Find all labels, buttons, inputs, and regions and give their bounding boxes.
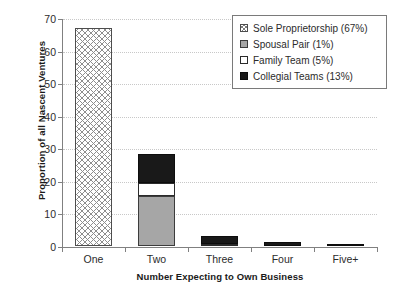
legend-item: Spousal Pair (1%) bbox=[240, 36, 380, 52]
x-tick-mark bbox=[314, 248, 315, 252]
y-tick-label: 60 bbox=[44, 46, 56, 58]
y-tick-mark bbox=[58, 182, 62, 183]
bar-stack bbox=[327, 244, 364, 246]
bar-segment-collegial-teams bbox=[201, 236, 238, 244]
legend-swatch-icon bbox=[240, 72, 248, 80]
y-tick-mark bbox=[58, 214, 62, 215]
legend-label: Sole Proprietorship (67%) bbox=[253, 23, 368, 34]
legend-label: Family Team (5%) bbox=[253, 55, 333, 66]
x-tick-label: Two bbox=[147, 253, 166, 265]
y-tick-label: 40 bbox=[44, 111, 56, 123]
x-tick-mark bbox=[125, 248, 126, 252]
y-tick-label: 70 bbox=[44, 13, 56, 25]
bar-segment-collegial-teams bbox=[138, 154, 175, 184]
bar-segment-collegial-teams bbox=[264, 242, 301, 246]
legend-label: Collegial Teams (13%) bbox=[253, 71, 353, 82]
legend-item: Collegial Teams (13%) bbox=[240, 68, 380, 84]
y-tick-label: 0 bbox=[50, 241, 56, 253]
bar-segment-sole-proprietorship bbox=[75, 28, 112, 246]
bar-segment-spousal-pair bbox=[138, 196, 175, 246]
bar-segment-family-team bbox=[138, 183, 175, 196]
y-tick-label: 50 bbox=[44, 78, 56, 90]
legend-swatch-icon bbox=[240, 24, 248, 32]
bar-stack bbox=[201, 236, 238, 246]
x-axis-line bbox=[62, 247, 378, 248]
legend-swatch-icon bbox=[240, 40, 248, 48]
legend-label: Spousal Pair (1%) bbox=[253, 39, 334, 50]
y-tick-mark bbox=[58, 117, 62, 118]
y-tick-mark bbox=[58, 84, 62, 85]
legend-swatch-icon bbox=[240, 56, 248, 64]
y-tick-mark bbox=[58, 19, 62, 20]
legend: Sole Proprietorship (67%)Spousal Pair (1… bbox=[232, 15, 387, 89]
bar-segment-family-team bbox=[201, 244, 238, 246]
y-tick-label: 20 bbox=[44, 176, 56, 188]
x-tick-mark bbox=[188, 248, 189, 252]
y-tick-label: 10 bbox=[44, 208, 56, 220]
y-tick-mark bbox=[58, 149, 62, 150]
x-tick-mark bbox=[377, 248, 378, 252]
legend-item: Family Team (5%) bbox=[240, 52, 380, 68]
x-tick-mark bbox=[62, 248, 63, 252]
x-tick-mark bbox=[251, 248, 252, 252]
y-tick-mark bbox=[58, 52, 62, 53]
y-tick-label: 30 bbox=[44, 143, 56, 155]
bar-stack bbox=[75, 28, 112, 246]
x-axis-title: Number Expecting to Own Business bbox=[62, 271, 378, 282]
legend-item: Sole Proprietorship (67%) bbox=[240, 20, 380, 36]
bar-stack bbox=[138, 154, 175, 246]
x-tick-label: One bbox=[84, 253, 104, 265]
bar-chart: Proportion of all Nascent Ventures 01020… bbox=[0, 0, 396, 293]
x-tick-label: Three bbox=[206, 253, 233, 265]
x-tick-label: Four bbox=[272, 253, 294, 265]
bar-stack bbox=[264, 242, 301, 246]
x-tick-label: Five+ bbox=[333, 253, 359, 265]
bar-segment-collegial-teams bbox=[327, 244, 364, 246]
